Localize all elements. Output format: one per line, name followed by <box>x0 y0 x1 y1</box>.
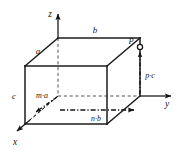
vector-nb-label: n·b <box>91 114 101 123</box>
y-axis-label: y <box>164 99 170 109</box>
vector-pc-label: p·c <box>144 71 155 80</box>
component-vectors <box>36 52 140 112</box>
unit-cell-figure: z y x a b c m·a n·b p·c P <box>0 0 182 157</box>
vector-ma-label: m·a <box>36 91 48 100</box>
edge-c-label: c <box>12 91 16 101</box>
edge-a-label: a <box>36 46 41 56</box>
point-P-marker <box>137 44 142 49</box>
cell-edges <box>25 38 140 124</box>
point-P-label: P <box>127 36 133 46</box>
z-axis-label: z <box>47 9 52 19</box>
unit-cell-diagram: z y x a b c m·a n·b p·c P <box>0 0 182 157</box>
x-axis-line <box>17 120 30 131</box>
edge-b-label: b <box>93 25 98 35</box>
x-axis-label: x <box>12 137 18 147</box>
